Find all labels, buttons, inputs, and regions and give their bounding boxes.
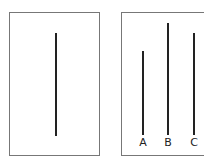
reference-card [9, 12, 100, 156]
comparison-line-a [142, 51, 144, 135]
comparison-card: A B C [121, 12, 204, 156]
comparison-line-c [193, 33, 195, 135]
reference-line [55, 33, 57, 136]
label-b: B [161, 137, 175, 148]
comparison-line-b [167, 23, 169, 135]
label-c: C [187, 137, 201, 148]
label-a: A [136, 137, 150, 148]
